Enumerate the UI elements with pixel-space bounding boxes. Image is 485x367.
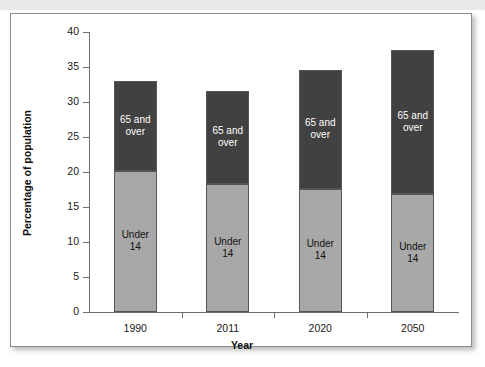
bar-segment-label: over	[126, 126, 145, 138]
bar-segment-label: 65 and	[212, 125, 243, 137]
bar-segment-label: Under	[307, 238, 334, 250]
y-axis-tick-label: 15	[49, 200, 79, 212]
x-axis-tick-label: 2020	[285, 322, 355, 334]
stacked-bar-chart: Percentage of population 051015202530354…	[11, 14, 473, 348]
y-axis-tick	[83, 312, 89, 313]
y-axis-tick	[83, 67, 89, 68]
y-axis-tick	[83, 207, 89, 208]
y-axis-tick	[83, 172, 89, 173]
bar-segment-65-and-over-2011[interactable]: 65 andover	[206, 91, 249, 184]
x-axis-tick-label: 2050	[378, 322, 448, 334]
bar-segment-label: over	[218, 137, 237, 149]
bar-segment-label: 65 and	[305, 117, 336, 129]
y-axis-tick-label: 5	[49, 270, 79, 282]
x-axis-tick	[367, 312, 368, 318]
bar-segment-label: Under	[122, 229, 149, 241]
y-axis-line	[89, 32, 90, 313]
bar-segment-under-14-2011[interactable]: Under14	[206, 184, 249, 312]
bar-segment-label: 14	[130, 241, 141, 253]
bar-segment-under-14-1990[interactable]: Under14	[114, 171, 157, 312]
y-axis-tick-label: 0	[49, 305, 79, 317]
bar-segment-label: over	[311, 129, 330, 141]
bar-segment-label: 65 and	[120, 114, 151, 126]
y-axis-title-wrap: Percentage of population	[19, 32, 35, 313]
y-axis-tick	[83, 277, 89, 278]
bar-segment-under-14-2020[interactable]: Under14	[299, 189, 342, 312]
bar-segment-label: Under	[399, 241, 426, 253]
bar-segment-label: 14	[222, 248, 233, 260]
bar-segment-label: over	[403, 122, 422, 134]
x-axis-tick	[274, 312, 275, 318]
bar-segment-65-and-over-2020[interactable]: 65 andover	[299, 70, 342, 189]
bar-segment-under-14-2050[interactable]: Under14	[391, 194, 434, 312]
bar-segment-label: 65 and	[397, 110, 428, 122]
y-axis-tick-label: 25	[49, 130, 79, 142]
y-axis-title: Percentage of population	[21, 109, 33, 235]
bar-segment-label: 14	[407, 253, 418, 265]
bar-segment-label: 14	[315, 250, 326, 262]
y-axis-tick-label: 30	[49, 95, 79, 107]
y-axis-tick-label: 20	[49, 165, 79, 177]
x-axis-tick	[182, 312, 183, 318]
bar-segment-label: Under	[214, 236, 241, 248]
y-axis-tick	[83, 242, 89, 243]
chart-figure-frame: Percentage of population 051015202530354…	[10, 13, 472, 347]
y-axis-tick-label: 40	[49, 25, 79, 37]
bar-segment-65-and-over-2050[interactable]: 65 andover	[391, 50, 434, 195]
x-axis-title: Year	[11, 339, 473, 351]
y-axis-tick-label: 35	[49, 60, 79, 72]
x-axis-tick-label: 1990	[100, 322, 170, 334]
y-axis-tick	[83, 102, 89, 103]
y-axis-tick	[83, 137, 89, 138]
x-axis-tick-label: 2011	[193, 322, 263, 334]
y-axis-tick	[83, 32, 89, 33]
cropped-header-strip: g g g p p p	[0, 0, 485, 10]
bar-segment-65-and-over-1990[interactable]: 65 andover	[114, 81, 157, 171]
y-axis-tick-label: 10	[49, 235, 79, 247]
